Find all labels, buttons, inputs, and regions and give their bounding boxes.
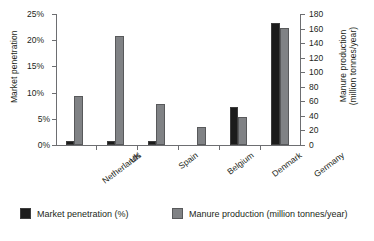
y-right-tick-6: 120 (309, 53, 339, 63)
bar-market-penetration-uk (107, 141, 115, 145)
y-right-tickmark-6 (301, 58, 305, 59)
x-axis-label-denmark: Denmark (270, 150, 304, 179)
bar-group-germany (260, 14, 301, 145)
y-right-tickmark-0 (301, 145, 305, 146)
y-left-tick-0: 0% (20, 140, 50, 150)
y-right-tickmark-4 (301, 87, 305, 88)
bar-manure-production-spain (156, 104, 165, 145)
y-left-tick-3: 15% (14, 61, 44, 71)
y-right-tickmark-3 (301, 101, 305, 102)
bar-manure-production-germany (280, 28, 289, 145)
y-left-tick-5: 25% (14, 9, 44, 19)
y-right-tickmark-2 (301, 116, 305, 117)
bar-market-penetration-denmark (230, 107, 238, 145)
x-axis-label-spain: Spain (176, 150, 199, 171)
y-left-tick-1: 5% (20, 114, 50, 124)
bar-manure-production-uk (115, 36, 124, 145)
y-right-tick-5: 100 (309, 67, 339, 77)
y-right-tickmark-8 (301, 29, 305, 30)
bar-group-spain (137, 14, 178, 145)
legend-swatch-gray (172, 208, 183, 219)
y-right-tick-4: 80 (309, 82, 339, 92)
bar-group-belgium (178, 14, 219, 145)
y-left-tickmark-0 (52, 145, 56, 146)
bar-group-uk (96, 14, 137, 145)
y-right-tick-0: 0 (309, 140, 339, 150)
bar-manure-production-belgium (197, 127, 206, 145)
x-axis-label-germany: Germany (312, 150, 346, 179)
x-axis-tickmark-3 (219, 146, 220, 150)
bar-group-denmark (219, 14, 260, 145)
y-right-tickmark-9 (301, 14, 305, 15)
x-axis-tickmark-4 (260, 146, 261, 150)
plot-area (56, 14, 301, 145)
chart-legend: Market penetration (%) Manure production… (20, 208, 374, 228)
bar-market-penetration-spain (148, 141, 156, 145)
legend-label-manure-production: Manure production (million tonnes/year) (189, 209, 348, 219)
y-right-tick-3: 60 (309, 96, 339, 106)
y-right-tick-7: 140 (309, 38, 339, 48)
y-left-tick-2: 10% (14, 88, 44, 98)
y-left-tick-4: 20% (14, 35, 44, 45)
y-right-tickmark-5 (301, 72, 305, 73)
x-axis-tickmark-0 (96, 146, 97, 150)
x-axis-label-belgium: Belgium (225, 150, 256, 176)
y-axis-right-title: Manure production (million tonnes/year) (338, 6, 358, 126)
legend-item-manure-production: Manure production (million tonnes/year) (172, 208, 348, 219)
legend-swatch-black (20, 208, 31, 219)
bar-manure-production-denmark (238, 117, 247, 145)
x-axis-tickmark-2 (178, 146, 179, 150)
y-right-tick-2: 40 (309, 111, 339, 121)
y-axis-right-title-line1: Manure production (338, 6, 348, 126)
legend-label-market-penetration: Market penetration (%) (37, 209, 129, 219)
y-right-tick-1: 20 (309, 125, 339, 135)
y-right-tickmark-1 (301, 130, 305, 131)
legend-item-market-penetration: Market penetration (%) (20, 208, 129, 219)
bar-market-penetration-netherlands (66, 141, 74, 145)
y-axis-right-title-line2: (million tonnes/year) (348, 6, 358, 126)
bar-manure-production-netherlands (74, 96, 83, 145)
y-right-tickmark-7 (301, 43, 305, 44)
y-right-tick-9: 180 (309, 9, 339, 19)
bar-chart: Market penetration Manure production (mi… (0, 0, 374, 241)
bar-market-penetration-germany (271, 23, 280, 145)
bar-group-netherlands (56, 14, 96, 145)
y-right-tick-8: 160 (309, 24, 339, 34)
